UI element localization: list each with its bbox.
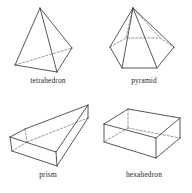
solid-cell-hexahedron: hexahedron	[96, 96, 192, 192]
solid-cell-pyramid: pyramid	[96, 0, 192, 96]
prism-drawing	[0, 96, 96, 174]
caption-prism: prism	[0, 170, 96, 180]
caption-pyramid: pyramid	[96, 76, 192, 86]
polyhedra-figure: tetrahedron pyramid	[0, 0, 192, 193]
solid-cell-prism: prism	[0, 96, 96, 192]
tetrahedron-drawing	[0, 0, 96, 78]
solid-cell-tetrahedron: tetrahedron	[0, 0, 96, 96]
pyramid-drawing	[96, 0, 192, 78]
hexahedron-drawing	[96, 96, 192, 174]
caption-hexahedron: hexahedron	[96, 170, 192, 180]
caption-tetrahedron: tetrahedron	[0, 76, 96, 86]
